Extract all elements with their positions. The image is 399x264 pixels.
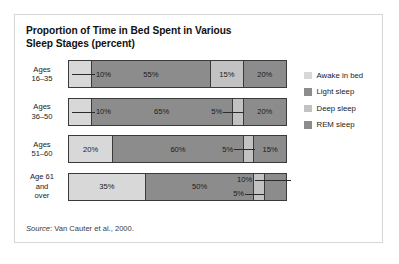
callout-leader-line [72,112,95,113]
bar-segment-value: 20% [257,70,272,79]
bar-row-label-line: 16–35 [31,74,52,83]
bar-segment: 15% [210,61,243,87]
bar-segment-callout: 5% [233,189,244,198]
source-note: Source: Van Cauter et al., 2000. [26,224,134,233]
bar-row-label: Ages16–35 [17,60,67,88]
callout-leader-line [72,74,95,75]
bar-segment-value: 35% [99,182,114,191]
bar-segment-value: 50% [192,182,207,191]
bar-row-label-line: 51–60 [31,149,52,158]
bar-row-label: Age 61andover [17,173,67,201]
chart-title-line-1: Proportion of Time in Bed Spent in Vario… [26,24,326,37]
bar-segment-callout: 10% [237,175,252,184]
legend-item-label: Awake in bed [317,71,364,80]
figure-frame: Proportion of Time in Bed Spent in Vario… [14,14,383,243]
legend-item: REM sleep [304,117,382,134]
bar-row: Age 61andover35%50%5%10%5%10% [15,173,384,201]
bar-segment-value: 20% [257,107,272,116]
bar-row-label: Ages51–60 [17,135,67,163]
bar-row-label: Ages36–50 [17,98,67,126]
bar-row-label-line: over [35,191,50,200]
bar-segment: 5% [253,174,264,200]
chart-title: Proportion of Time in Bed Spent in Vario… [26,24,326,50]
bar-row-label-line: and [36,182,49,191]
legend-swatch-icon [304,105,312,113]
bar-segment-value: 15% [219,70,234,79]
callout-leader-line [223,112,244,113]
bar-segment-value: 60% [170,145,185,154]
stacked-bar: 35%50%5%10% [68,173,287,201]
source-label: Source [26,224,50,233]
bar-segment: 10% [264,174,286,200]
legend-swatch-icon [304,121,312,129]
chart-title-line-2: Sleep Stages (percent) [26,37,326,50]
bar-row-label-line: 36–50 [31,112,52,121]
bar-segment-callout: 5% [211,107,222,116]
callout-leader-line [255,180,291,181]
legend-item-label: Deep sleep [317,104,356,113]
bar-row-label-line: Age 61 [30,172,54,181]
legend-item: Deep sleep [304,100,382,117]
legend-swatch-icon [304,72,312,80]
bar-segment: 20% [69,136,112,162]
legend-item: Awake in bed [304,67,382,84]
bar-segment-callout: 10% [96,70,111,79]
bar-segment: 20% [243,61,286,87]
legend-item-label: REM sleep [317,120,355,129]
bar-segment-callout: 10% [96,107,111,116]
bar-segment-callout: 5% [222,145,233,154]
bar-row-label-line: Ages [33,140,50,149]
bar-segment: 15% [253,136,286,162]
bar-segment: 20% [243,99,286,125]
bar-segment-value: 55% [143,70,158,79]
chart-legend: Awake in bedLight sleepDeep sleepREM sle… [304,67,382,133]
legend-swatch-icon [304,88,312,96]
bar-segment-value: 20% [83,145,98,154]
bar-segment-value: 15% [263,145,278,154]
bar-row-label-line: Ages [33,102,50,111]
callout-leader-line [245,194,264,195]
callout-leader-line [234,149,255,150]
bar-row: Ages51–6020%60%5%15%5% [15,135,384,163]
bar-segment: 35% [69,174,145,200]
bar-row-label-line: Ages [33,65,50,74]
source-citation: : Van Cauter et al., 2000. [50,224,134,233]
bar-segment-value: 65% [154,107,169,116]
legend-item: Light sleep [304,84,382,101]
legend-item-label: Light sleep [317,87,355,96]
